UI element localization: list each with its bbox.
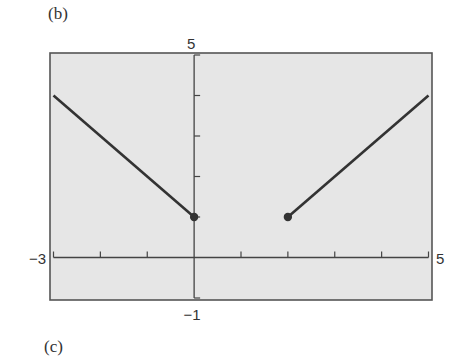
right-branch-endpoint-dot bbox=[284, 213, 292, 221]
y-min-label: −1 bbox=[184, 306, 201, 323]
plot-area bbox=[50, 53, 432, 300]
chart: 5 −1 −3 5 bbox=[0, 0, 462, 357]
left-branch-endpoint-dot bbox=[190, 213, 198, 221]
x-max-label: 5 bbox=[436, 250, 444, 267]
x-min-label: −3 bbox=[29, 250, 46, 267]
y-max-label: 5 bbox=[187, 35, 195, 52]
